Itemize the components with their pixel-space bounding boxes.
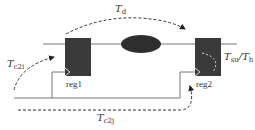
clock-skew-reg2-label: Tc2j bbox=[97, 113, 114, 125]
register-reg2 bbox=[195, 38, 221, 76]
data-delay-arrow bbox=[66, 18, 185, 34]
combinational-logic bbox=[121, 35, 161, 53]
timing-diagram: Td Tc2i Tc2j Tsu/Th reg1 reg2 bbox=[0, 0, 255, 130]
register-reg1 bbox=[65, 38, 91, 76]
data-delay-label: Td bbox=[115, 4, 126, 16]
setup-hold-label: Tsu/Th bbox=[224, 52, 253, 64]
reg1-label: reg1 bbox=[66, 80, 82, 89]
diagram-graphics bbox=[0, 0, 255, 130]
reg2-label: reg2 bbox=[196, 80, 212, 89]
clock-skew-reg1-label: Tc2i bbox=[7, 59, 24, 71]
clock-wire bbox=[14, 72, 195, 98]
